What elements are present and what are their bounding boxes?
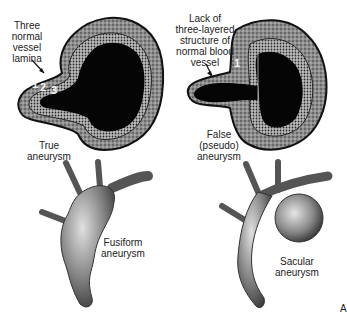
true-aneurysm-annotation: Three normal vessel lamina <box>4 20 50 64</box>
fusiform-aneurysm-vessel <box>42 162 148 307</box>
annotation-line: vessel <box>174 57 236 68</box>
aneurysm-diagram: Three normal vessel lamina 1 2 3 True an… <box>0 0 347 319</box>
caption-line: False <box>194 129 244 140</box>
annotation-line: structure of <box>174 35 236 46</box>
fusiform-aneurysm-caption: Fusiform aneurysm <box>98 237 148 259</box>
corner-mark: A <box>340 303 347 314</box>
layer-number-1: 1 <box>234 57 240 69</box>
sacular-aneurysm-caption: Sacular aneurysm <box>272 256 322 278</box>
annotation-line: Lack of <box>174 13 236 24</box>
annotation-line: normal <box>4 31 50 42</box>
annotation-line: vessel <box>4 42 50 53</box>
caption-line: True <box>24 140 74 151</box>
caption-line: aneurysm <box>194 151 244 162</box>
saccular-bulge <box>275 194 323 242</box>
false-aneurysm-caption: False (pseudo) aneurysm <box>194 129 244 162</box>
annotation-line: three-layered <box>174 24 236 35</box>
caption-line: aneurysm <box>98 248 148 259</box>
true-aneurysm-caption: True aneurysm <box>24 140 74 162</box>
sacular-aneurysm-vessel <box>222 162 328 308</box>
layer-number-3: 3 <box>51 84 57 96</box>
layer-number-1: 1 <box>32 78 38 90</box>
caption-line: aneurysm <box>272 267 322 278</box>
caption-line: Fusiform <box>98 237 148 248</box>
layer-number-2: 2 <box>40 81 46 93</box>
false-aneurysm-annotation: Lack of three-layered structure of norma… <box>174 13 236 68</box>
caption-line: Sacular <box>272 256 322 267</box>
annotation-line: lamina <box>4 53 50 64</box>
annotation-line: Three <box>4 20 50 31</box>
caption-line: (pseudo) <box>194 140 244 151</box>
arrowhead-icon <box>207 71 212 77</box>
caption-line: aneurysm <box>24 151 74 162</box>
annotation-line: normal blood <box>174 46 236 57</box>
